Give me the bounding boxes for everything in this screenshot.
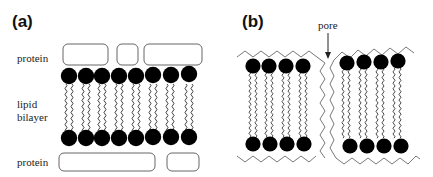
panel-a: (a) protein lipid bilayer protein bbox=[12, 12, 202, 171]
bottom-protein-1 bbox=[59, 153, 155, 171]
top-protein-1 bbox=[63, 44, 108, 65]
pore-arrow-head-icon bbox=[325, 52, 331, 59]
pore-label: pore bbox=[318, 19, 338, 31]
top-lipid-heads-a bbox=[61, 66, 197, 84]
top-protein-label: protein bbox=[17, 52, 49, 64]
bottom-lipid-heads-a bbox=[61, 129, 197, 146]
bottom-protein-2 bbox=[167, 153, 199, 171]
panel-b-label: (b) bbox=[242, 12, 264, 31]
right-block-bottom-edge bbox=[336, 156, 420, 164]
left-lipid-heads-b bbox=[245, 58, 311, 151]
top-protein-3 bbox=[144, 44, 202, 65]
bottom-protein-label: protein bbox=[17, 156, 49, 168]
left-block-bottom-edge bbox=[237, 156, 316, 162]
lipid-tails-b-right bbox=[342, 68, 401, 139]
lipid-tails-b-left bbox=[249, 71, 307, 137]
membrane-diagram: (a) protein lipid bilayer protein bbox=[0, 0, 433, 177]
pore-right-wall bbox=[330, 60, 336, 158]
panel-b: (b) pore bbox=[237, 12, 420, 164]
lipid-tails-a bbox=[65, 84, 193, 132]
bilayer-label-line1: lipid bbox=[17, 98, 38, 110]
pore-left-wall bbox=[320, 63, 325, 158]
top-protein-2 bbox=[117, 44, 138, 65]
bilayer-label-line2: bilayer bbox=[17, 111, 48, 123]
panel-a-label: (a) bbox=[12, 12, 33, 31]
